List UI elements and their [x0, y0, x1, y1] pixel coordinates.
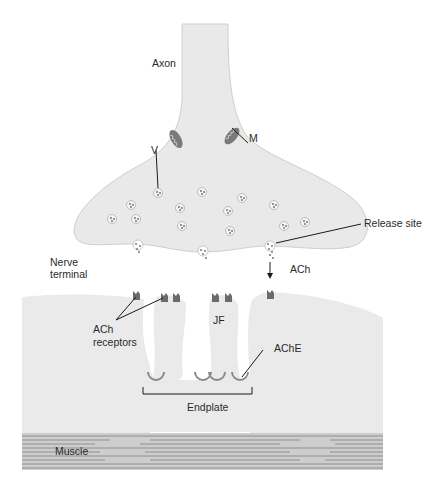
ach-label: ACh: [290, 263, 311, 275]
nerve-terminal: [74, 24, 367, 259]
axon-label: Axon: [152, 57, 176, 69]
junctional-fold: [153, 295, 186, 385]
release-site-label: Release site: [364, 217, 422, 229]
junctional-fold-label: JF: [213, 314, 225, 326]
neuromuscular-junction-figure: Axon V M Release site Nerve terminal ACh…: [0, 0, 439, 490]
ache-label: AChE: [274, 342, 301, 354]
endplate-label: Endplate: [187, 401, 229, 413]
ach-receptors-label-line2: receptors: [93, 336, 137, 348]
muscle-label: Muscle: [55, 445, 88, 457]
vesicle-label: V: [151, 144, 158, 156]
ach-release-arrow: [267, 262, 273, 279]
ach-receptors-label-line1: ACh: [93, 323, 114, 335]
nerve-terminal-label-line2: terminal: [50, 268, 87, 280]
nerve-terminal-label-line1: Nerve: [50, 256, 78, 268]
axon-and-terminal-body: [74, 24, 367, 252]
muscle-fiber: [22, 290, 383, 470]
mitochondrion-label: M: [249, 132, 258, 144]
